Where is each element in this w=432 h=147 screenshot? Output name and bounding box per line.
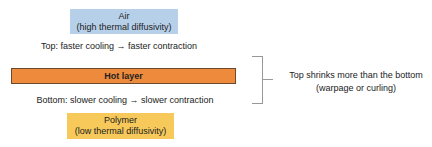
bottom-caption: Bottom: slower cooling → slower contract… <box>0 95 250 105</box>
polymer-box: Polymer (low thermal diffusivity) <box>67 113 174 139</box>
air-box: Air (high thermal diffusivity) <box>70 9 178 34</box>
top-caption: Top: faster cooling → faster contraction <box>0 41 238 51</box>
bracket-connector <box>252 56 263 104</box>
polymer-title: Polymer <box>104 115 137 126</box>
air-title: Air <box>119 11 130 22</box>
hot-layer: Hot layer <box>11 68 236 84</box>
conclusion-text: Top shrinks more than the bottom (warpag… <box>280 69 432 95</box>
conclusion-line-1: Top shrinks more than the bottom <box>280 69 432 82</box>
conclusion-line-2: (warpage or curling) <box>280 82 432 95</box>
hot-layer-label: Hot layer <box>104 71 143 82</box>
air-subtitle: (high thermal diffusivity) <box>77 22 172 33</box>
polymer-subtitle: (low thermal diffusivity) <box>75 126 166 137</box>
bracket-tick <box>263 79 273 80</box>
